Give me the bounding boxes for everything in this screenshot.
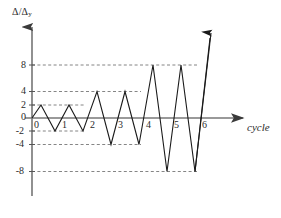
y-tick-label-neg2: -2	[8, 126, 24, 136]
chart-plot-area	[0, 0, 281, 218]
x-tick-label-1: 1	[62, 120, 76, 130]
x-tick-label-5: 5	[174, 120, 188, 130]
data-series-displacement-history	[32, 38, 210, 172]
y-tick-label-neg4: -4	[8, 139, 24, 149]
x-tick-label-4: 4	[146, 120, 160, 130]
series-end-arrow-icon	[195, 33, 211, 172]
x-tick-label-3: 3	[118, 120, 132, 130]
y-tick-label-0: 0	[10, 112, 26, 122]
x-tick-label-6: 6	[202, 120, 216, 130]
x-tick-label-2: 2	[90, 120, 104, 130]
y-tick-label-8: 8	[10, 60, 26, 70]
chart-figure: Δ/Δy cycle 8 4 2 0 -2 -4 -8 0 1 2 3 4 5 …	[0, 0, 281, 218]
y-tick-label-2: 2	[10, 100, 26, 110]
x-tick-label-0: 0	[34, 120, 48, 130]
y-axis-title-subscript: y	[28, 10, 32, 18]
y-axis-title-main: Δ/Δ	[12, 6, 28, 17]
y-tick-label-4: 4	[10, 86, 26, 96]
y-tick-label-neg8: -8	[8, 166, 24, 176]
y-axis-title: Δ/Δy	[12, 7, 32, 18]
x-axis-title: cycle	[247, 122, 270, 133]
